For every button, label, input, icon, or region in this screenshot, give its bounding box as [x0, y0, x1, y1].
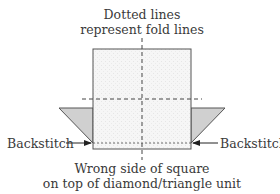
caption-line-2: on top of diamond/triangle unit [43, 176, 241, 191]
right-backstitch-label: Backstitch [220, 136, 280, 151]
caption-line-1: Wrong side of square [74, 161, 209, 176]
left-backstitch-label: Backstitch [7, 136, 74, 151]
